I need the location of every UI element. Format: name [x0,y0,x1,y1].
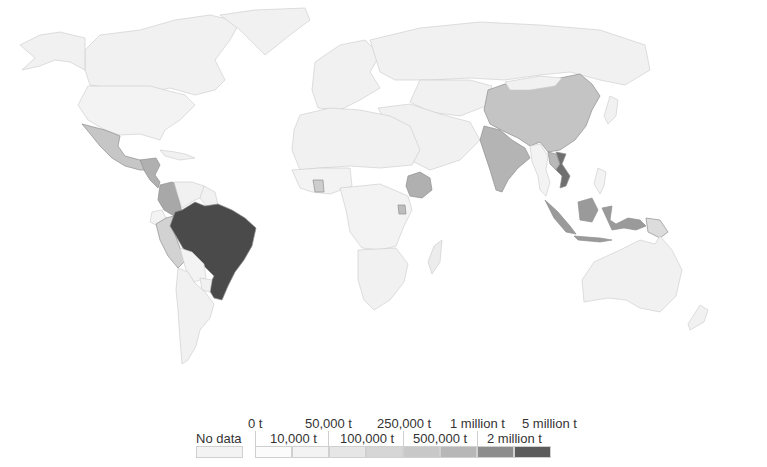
legend: No data 0 t 50,000 t 250,000 t 1 million… [0,405,767,467]
legend-swatch-7 [477,446,514,458]
region-central-africa [340,184,412,250]
region-new-zealand [688,305,708,330]
legend-swatch-8 [514,446,551,458]
world-choropleth-map [0,0,767,400]
legend-label-500000t: 500,000 t [413,431,467,446]
legend-label-100000t: 100,000 t [340,431,394,446]
region-guianas [200,186,218,206]
legend-no-data-swatch [196,446,243,458]
legend-label-5mt: 5 million t [522,416,577,431]
region-central-america [140,158,160,188]
legend-swatch-2 [292,446,329,458]
region-alaska [20,32,85,70]
legend-no-data-label: No data [196,431,242,446]
region-uganda [398,205,406,214]
region-cote-divoire [313,180,324,192]
legend-swatch-6 [440,446,477,458]
region-canada [85,15,240,95]
region-papua-new-guinea [646,218,668,238]
region-indonesia-java [574,236,612,242]
legend-swatch-3 [329,446,366,458]
region-japan [604,96,618,124]
region-ethiopia [406,172,432,198]
legend-label-10000t: 10,000 t [270,431,317,446]
region-caribbean [160,150,195,160]
legend-label-0t: 0 t [248,416,262,431]
legend-label-250000t: 250,000 t [377,416,431,431]
region-russia [370,22,650,85]
legend-label-2mt: 2 million t [487,431,542,446]
legend-label-1mt: 1 million t [450,416,505,431]
region-australia [582,236,682,312]
region-southern-africa [358,248,408,310]
region-vietnam [556,152,570,188]
legend-swatch-4 [366,446,403,458]
region-europe [312,40,380,110]
region-myanmar-thailand [530,144,550,196]
legend-label-50000t: 50,000 t [305,416,352,431]
legend-swatch-5 [403,446,440,458]
region-indonesia-sumatra [545,200,576,234]
region-indonesia-borneo [578,198,598,222]
region-philippines [594,168,606,194]
region-madagascar [428,240,442,274]
region-indonesia-east [602,206,646,230]
legend-swatch-1 [255,446,292,458]
